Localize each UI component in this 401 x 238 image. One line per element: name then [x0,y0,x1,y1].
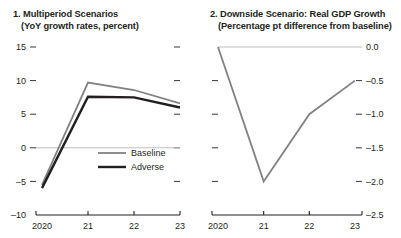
x-tick-label: 21 [259,221,269,231]
panel-1-plot-area: 151050–5–102020212223BaselineAdverse [0,36,200,236]
y-tick-label: –2.5 [366,210,384,220]
y-tick-label: –0.5 [366,76,384,86]
panel-1-title-line-1: 1. Multiperiod Scenarios [13,8,139,20]
y-tick-label: –5 [16,177,26,187]
y-tick-label: –2.0 [366,177,384,187]
x-tick-label: 21 [83,221,93,231]
y-tick-label: 0 [21,143,26,153]
x-tick-label: 2020 [32,221,52,231]
panel-2-plot-area: 0.0–0.5–1.0–1.5–2.0–2.52020212223 [200,36,401,236]
panel-2-title: 2. Downside Scenario: Real GDP Growth (P… [210,8,392,32]
y-tick-label: –1.0 [366,109,384,119]
panel-1-subtitle: (YoY growth rates, percent) [13,20,139,32]
y-tick-label: 0.0 [366,42,379,52]
panel-1-title: 1. Multiperiod Scenarios (YoY growth rat… [13,8,139,32]
panel-2-subtitle: (Percentage pt difference from baseline) [210,20,392,32]
x-tick-label: 2020 [208,221,228,231]
chart-legend: BaselineAdverse [98,148,166,172]
chart-panel-2: 2. Downside Scenario: Real GDP Growth (P… [200,0,401,238]
x-tick-label: 23 [175,221,185,231]
y-tick-label: 5 [21,109,26,119]
legend-label-baseline: Baseline [131,148,166,158]
y-tick-label: –10 [11,210,26,220]
panel-2-title-line-1: 2. Downside Scenario: Real GDP Growth [210,8,392,20]
x-tick-label: 23 [350,221,360,231]
y-tick-label: 10 [16,76,26,86]
x-tick-label: 22 [304,221,314,231]
chart-panel-1: 1. Multiperiod Scenarios (YoY growth rat… [0,0,200,238]
series-line-downside [218,47,355,181]
series-line-adverse [42,97,180,188]
legend-label-adverse: Adverse [131,162,164,172]
x-tick-label: 22 [129,221,139,231]
y-tick-label: –1.5 [366,143,384,153]
figure-container: 1. Multiperiod Scenarios (YoY growth rat… [0,0,401,238]
y-tick-label: 15 [16,42,26,52]
